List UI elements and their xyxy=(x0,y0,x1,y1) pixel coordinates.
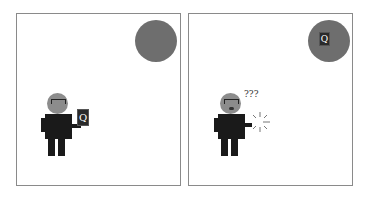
comic-panel-1: Q xyxy=(16,13,181,186)
glasses-icon xyxy=(224,99,239,104)
q-card: Q xyxy=(77,109,89,126)
comic-panel-2: Q ??? xyxy=(188,13,353,186)
person-left-arm xyxy=(41,118,46,132)
q-card: Q xyxy=(319,32,330,46)
person-left-leg xyxy=(48,138,55,156)
person-right-leg xyxy=(231,138,238,156)
open-mouth-icon xyxy=(229,107,234,110)
person-torso xyxy=(45,114,72,139)
confused-thought-text: ??? xyxy=(244,89,258,99)
sparkle-icon xyxy=(249,111,271,133)
glasses-icon xyxy=(51,99,66,104)
person-left-arm xyxy=(214,118,219,132)
person-torso xyxy=(218,114,245,139)
gray-ball xyxy=(135,20,177,62)
person-left-leg xyxy=(221,138,228,156)
person-right-leg xyxy=(58,138,65,156)
